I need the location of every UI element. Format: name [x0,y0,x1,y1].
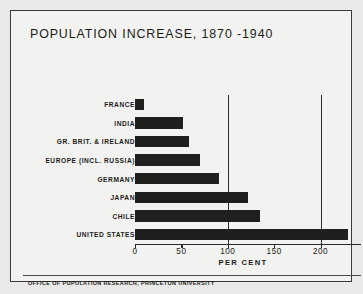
x-tick-label: 50 [176,247,186,256]
bar-category-label: FRANCE [104,101,135,108]
footer-divider [23,275,361,276]
x-tick-label: 150 [267,247,282,256]
bar-category-label: EUROPE (INCL. RUSSIA) [45,157,135,164]
bar-category-label: INDIA [114,119,135,126]
plot-area: FRANCEINDIAGR. BRIT. & IRELANDEUROPE (IN… [11,11,363,294]
x-tick-label: 0 [132,247,137,256]
bar [135,192,248,203]
bar [135,173,219,184]
bar [135,99,144,110]
bar-category-label: JAPAN [110,194,135,201]
bar-row: EUROPE (INCL. RUSSIA) [11,151,363,170]
chart-plate: POPULATION INCREASE, 1870 -1940 FRANCEIN… [10,10,352,282]
bar-row: INDIA [11,114,363,133]
x-axis-line [135,244,361,245]
bar [135,117,183,128]
bar-category-label: CHILE [112,212,135,219]
bar-category-label: GERMANY [97,175,135,182]
poster-background: POPULATION INCREASE, 1870 -1940 FRANCEIN… [0,0,363,294]
x-axis-title: PER CENT [219,258,268,267]
bar [135,229,348,240]
bar [135,154,200,165]
bar [135,136,189,147]
bar-row: CHILE [11,207,363,226]
x-tick-label: 100 [220,247,235,256]
bar-category-label: GR. BRIT. & IRELAND [57,138,135,145]
bar-row: JAPAN [11,188,363,207]
bar-row: FRANCE [11,95,363,114]
bar-row: UNITED STATES [11,225,363,244]
x-tick-label: 200 [313,247,328,256]
bar-category-label: UNITED STATES [76,231,135,238]
bar-row: GR. BRIT. & IRELAND [11,132,363,151]
bar-row: GERMANY [11,169,363,188]
credit-line: OFFICE OF POPULATION RESEARCH, PRINCETON… [28,280,215,286]
bar [135,210,260,221]
